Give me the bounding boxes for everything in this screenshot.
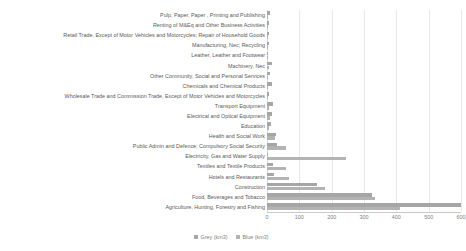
bar-blue (267, 187, 325, 191)
category-label: Electricity, Gas and Water Supply (5, 153, 265, 159)
legend-swatch-icon (194, 235, 198, 239)
category-label: Leather, Leather and Footwear (5, 52, 265, 58)
bar-group (267, 182, 461, 192)
bar-blue (267, 106, 269, 110)
chart-row: Chemicals and Chemical Products (0, 81, 463, 91)
bar-group (267, 40, 461, 50)
bar-blue (267, 25, 268, 29)
bar-blue (267, 76, 268, 80)
legend-item[interactable]: Blue (km3) (236, 234, 268, 240)
chart-row: Renting of M&Eq and Other Business Activ… (0, 20, 463, 30)
chart-row: Hotels and Restaurants (0, 172, 463, 182)
x-tick-label: 200 (327, 214, 336, 220)
bar-group (267, 91, 461, 101)
chart-row: Construction (0, 182, 463, 192)
chart-row: Agriculture, Hunting, Forestry and Fishi… (0, 202, 463, 212)
bar-group (267, 192, 461, 202)
category-label: Agriculture, Hunting, Forestry and Fishi… (5, 204, 265, 210)
bar-group (267, 60, 461, 70)
category-label: Textiles and Textile Products (5, 163, 265, 169)
x-tick-label: 600 (457, 214, 466, 220)
bar-blue (267, 136, 275, 140)
chart-row: Transport Equipment (0, 101, 463, 111)
bar-group (267, 111, 461, 121)
legend-label: Grey (km3) (200, 234, 227, 240)
bar-blue (267, 66, 269, 70)
chart-row: Food, Beverages and Tobacco (0, 192, 463, 202)
bar-group (267, 121, 461, 131)
bar-group (267, 20, 461, 30)
category-label: Hotels and Restaurants (5, 174, 265, 180)
category-label: Construction (5, 184, 265, 190)
bar-blue (267, 167, 286, 171)
category-label: Chemicals and Chemical Products (5, 83, 265, 89)
bar-blue (267, 126, 269, 130)
bar-group (267, 151, 461, 161)
legend-label: Blue (km3) (242, 234, 268, 240)
chart-row: Education (0, 121, 463, 131)
bar-blue (267, 45, 268, 49)
bar-group (267, 81, 461, 91)
bar-blue (267, 197, 375, 201)
category-label: Pulp, Paper, Paper , Printing and Publis… (5, 12, 265, 18)
bar-blue (267, 207, 400, 211)
chart-legend: Grey (km3)Blue (km3) (0, 234, 463, 240)
category-label: Other Community, Social and Personal Ser… (5, 73, 265, 79)
legend-item[interactable]: Grey (km3) (194, 234, 227, 240)
chart-row: Electricity, Gas and Water Supply (0, 151, 463, 161)
category-label: Health and Social Work (5, 133, 265, 139)
bar-blue (267, 15, 268, 19)
bar-group (267, 131, 461, 141)
chart-row: Electrical and Optical Equipment (0, 111, 463, 121)
chart-row: Machinery, Nec (0, 60, 463, 70)
category-label: Electrical and Optical Equipment (5, 113, 265, 119)
x-tick-label: 100 (295, 214, 304, 220)
bar-group (267, 161, 461, 171)
category-label: Manufacturing, Nec; Recycling (5, 42, 265, 48)
chart-row: Other Community, Social and Personal Ser… (0, 71, 463, 81)
bar-group (267, 141, 461, 151)
bar-blue (267, 56, 268, 60)
bar-blue (267, 157, 346, 161)
chart-row: Public Admin and Defence; Compulsory Soc… (0, 141, 463, 151)
category-label: Machinery, Nec (5, 63, 265, 69)
chart-rows: Pulp, Paper, Paper , Printing and Publis… (0, 10, 463, 212)
chart-row: Pulp, Paper, Paper , Printing and Publis… (0, 10, 463, 20)
bar-group (267, 101, 461, 111)
category-label: Education (5, 123, 265, 129)
bar-blue (267, 146, 286, 150)
bar-blue (267, 86, 268, 90)
x-tick-label: 0 (266, 214, 269, 220)
x-tick-label: 300 (360, 214, 369, 220)
x-tick-label: 500 (424, 214, 433, 220)
bar-blue (267, 35, 268, 39)
bar-blue (267, 116, 270, 120)
category-label: Wholesale Trade and Commission Trade, Ex… (5, 93, 265, 99)
category-label: Transport Equipment (5, 103, 265, 109)
bar-group (267, 50, 461, 60)
plot-area: Pulp, Paper, Paper , Printing and Publis… (0, 10, 463, 212)
chart-row: Retail Trade, Except of Motor Vehicles a… (0, 30, 463, 40)
category-label: Food, Beverages and Tobacco (5, 194, 265, 200)
category-label: Renting of M&Eq and Other Business Activ… (5, 22, 265, 28)
bar-group (267, 30, 461, 40)
category-label: Retail Trade, Except of Motor Vehicles a… (5, 32, 265, 38)
x-axis-ticks: 0100200300400500600 (267, 214, 461, 224)
bar-group (267, 202, 461, 212)
bar-blue (267, 177, 289, 181)
bar-blue (267, 96, 268, 100)
chart-row: Wholesale Trade and Commission Trade, Ex… (0, 91, 463, 101)
x-axis-line (267, 212, 461, 213)
bar-group (267, 71, 461, 81)
chart-row: Manufacturing, Nec; Recycling (0, 40, 463, 50)
chart-row: Health and Social Work (0, 131, 463, 141)
bar-group (267, 172, 461, 182)
chart-row: Leather, Leather and Footwear (0, 50, 463, 60)
category-label: Public Admin and Defence; Compulsory Soc… (5, 143, 265, 149)
bar-group (267, 10, 461, 20)
legend-swatch-icon (236, 235, 240, 239)
x-tick-label: 400 (392, 214, 401, 220)
chart-row: Textiles and Textile Products (0, 161, 463, 171)
